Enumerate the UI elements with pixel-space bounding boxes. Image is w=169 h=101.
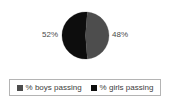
legend-item-boys-passing[interactable]: % boys passing bbox=[17, 83, 82, 92]
pie-slice-boys bbox=[62, 12, 87, 59]
legend-label-boys: % boys passing bbox=[26, 83, 82, 92]
pie-chart-figure: 52% 48% % boys passing % girls passing bbox=[0, 0, 169, 101]
pie-graphic bbox=[61, 11, 110, 60]
legend-label-girls: % girls passing bbox=[100, 83, 154, 92]
legend-item-girls-passing[interactable]: % girls passing bbox=[91, 83, 154, 92]
chart-legend: % boys passing % girls passing bbox=[9, 79, 161, 96]
legend-swatch-girls-icon bbox=[91, 85, 97, 91]
pie-slice-girls bbox=[86, 12, 110, 59]
pie-plot-area: 52% 48% bbox=[0, 0, 169, 70]
legend-swatch-boys-icon bbox=[17, 85, 23, 91]
pie-label-boys-value: 52% bbox=[42, 30, 58, 40]
pie-label-girls-value: 48% bbox=[112, 30, 128, 40]
